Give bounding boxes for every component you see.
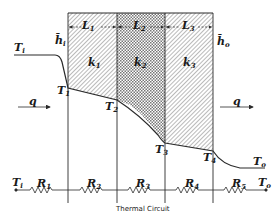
- outer-h-label: h̄o: [217, 36, 230, 47]
- circuit-end-label: To: [258, 177, 271, 188]
- interface-temp-2: T2: [105, 101, 118, 112]
- outer-temp-label: To: [253, 156, 266, 167]
- thickness-label-1: L1: [82, 20, 95, 31]
- layer-3: [165, 13, 213, 151]
- heat-flow-label-right: q: [233, 96, 241, 107]
- resistor-label-1: R1: [37, 178, 51, 189]
- wall-layers: [68, 13, 213, 151]
- interface-temp-4: T4: [203, 152, 216, 163]
- conductivity-label-3: k3: [183, 57, 196, 68]
- interface-temp-1: T1: [57, 85, 70, 96]
- resistor-label-2: R2: [87, 178, 101, 189]
- thickness-label-2: L2: [133, 20, 146, 31]
- resistor-label-5: R5: [232, 178, 246, 189]
- interface-temp-3: T3: [155, 144, 168, 155]
- inner-temp-label: Ti: [14, 42, 25, 53]
- resistor-label-3: R3: [136, 178, 150, 189]
- heat-flow-label-left: q: [29, 96, 37, 107]
- circuit-start-label: Ti: [12, 177, 23, 188]
- conductivity-label-1: k1: [88, 57, 101, 68]
- conductivity-label-2: k2: [134, 57, 147, 68]
- thickness-label-3: L3: [182, 20, 195, 31]
- resistor-label-4: R4: [185, 178, 199, 189]
- inner-h-label: h̄i: [55, 35, 66, 46]
- circuit-caption: Thermal Circuit: [116, 205, 170, 213]
